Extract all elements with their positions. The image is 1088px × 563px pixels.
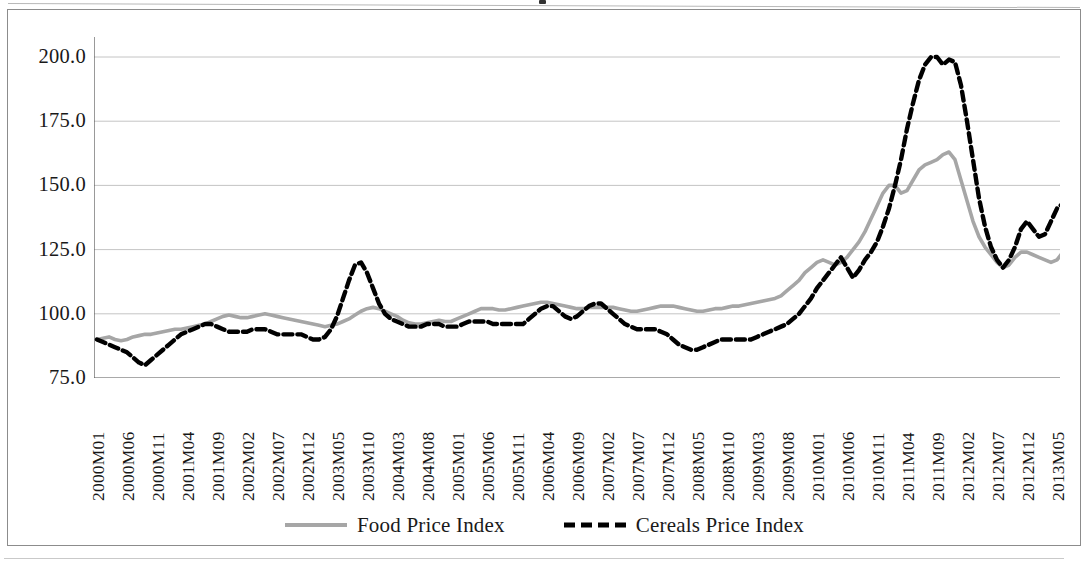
y-axis-tick-label: 75.0 bbox=[6, 367, 86, 388]
x-axis-tick-label: 2011M04 bbox=[898, 383, 919, 501]
legend-label-food: Food Price Index bbox=[357, 513, 505, 538]
x-axis-tick-label: 2007M12 bbox=[658, 383, 679, 501]
x-axis-tick-label: 2010M06 bbox=[838, 383, 859, 501]
x-axis-tick-label: 2011M09 bbox=[928, 383, 949, 501]
y-axis-tick-label: 175.0 bbox=[6, 110, 86, 131]
y-axis-tick-label: 100.0 bbox=[6, 303, 86, 324]
x-axis-tick-label: 2000M06 bbox=[118, 383, 139, 501]
x-axis-tick-label: 2003M05 bbox=[328, 383, 349, 501]
x-axis-tick-label: 2013M05 bbox=[1048, 383, 1069, 501]
x-axis-tick-label: 2003M10 bbox=[358, 383, 379, 501]
x-axis-tick-label: 2012M12 bbox=[1018, 383, 1039, 501]
x-axis-tick-label: 2002M12 bbox=[298, 383, 319, 501]
legend-label-cereals: Cereals Price Index bbox=[636, 513, 804, 538]
x-axis-tick-label: 2007M07 bbox=[628, 383, 649, 501]
x-axis-labels: 2000M012000M062000M112001M042001M092002M… bbox=[94, 383, 1060, 505]
x-axis-tick-label: 2005M01 bbox=[448, 383, 469, 501]
data-series-group bbox=[97, 57, 1060, 365]
chart-figure: 200.0175.0150.0125.0100.075.0 2000M01200… bbox=[0, 0, 1088, 563]
plot-area bbox=[94, 25, 1060, 378]
y-axis-labels: 200.0175.0150.0125.0100.075.0 bbox=[0, 0, 86, 563]
x-axis-tick-label: 2001M09 bbox=[208, 383, 229, 501]
x-axis-tick-label: 2010M11 bbox=[868, 383, 889, 501]
legend-swatch-food-icon bbox=[284, 518, 348, 532]
scan-edge-bottom bbox=[4, 558, 1064, 559]
legend-swatch-cereals-icon bbox=[563, 518, 627, 532]
cropped-title-fragment bbox=[539, 0, 546, 4]
x-axis-tick-label: 2000M11 bbox=[148, 383, 169, 501]
x-axis-tick-label: 2005M11 bbox=[508, 383, 529, 501]
x-axis-tick-label: 2008M05 bbox=[688, 383, 709, 501]
x-axis-tick-label: 2010M01 bbox=[808, 383, 829, 501]
x-axis-tick-label: 2004M03 bbox=[388, 383, 409, 501]
x-axis-tick-label: 2006M04 bbox=[538, 383, 559, 501]
x-axis-tick-label: 2007M02 bbox=[598, 383, 619, 501]
chart-legend: Food Price Index Cereals Price Index bbox=[0, 508, 1088, 542]
y-axis-tick-label: 125.0 bbox=[6, 239, 86, 260]
y-axis-tick-label: 200.0 bbox=[6, 46, 86, 67]
x-axis-tick-label: 2004M08 bbox=[418, 383, 439, 501]
x-axis-tick-label: 2009M03 bbox=[748, 383, 769, 501]
x-axis-tick-label: 2006M09 bbox=[568, 383, 589, 501]
line-chart-svg bbox=[94, 25, 1060, 378]
legend-entry-food: Food Price Index bbox=[284, 513, 505, 538]
legend-entry-cereals: Cereals Price Index bbox=[563, 513, 804, 538]
x-axis-tick-label: 2002M07 bbox=[268, 383, 289, 501]
x-axis-tick-label: 2012M02 bbox=[958, 383, 979, 501]
x-axis-tick-label: 2012M07 bbox=[988, 383, 1009, 501]
x-axis-tick-label: 2005M06 bbox=[478, 383, 499, 501]
x-axis-tick-label: 2001M04 bbox=[178, 383, 199, 501]
x-axis-tick-label: 2009M08 bbox=[778, 383, 799, 501]
x-axis-tick-label: 2008M10 bbox=[718, 383, 739, 501]
y-axis-tick-label: 150.0 bbox=[6, 174, 86, 195]
x-axis-tick-label: 2000M01 bbox=[88, 383, 109, 501]
x-axis-tick-label: 2002M02 bbox=[238, 383, 259, 501]
